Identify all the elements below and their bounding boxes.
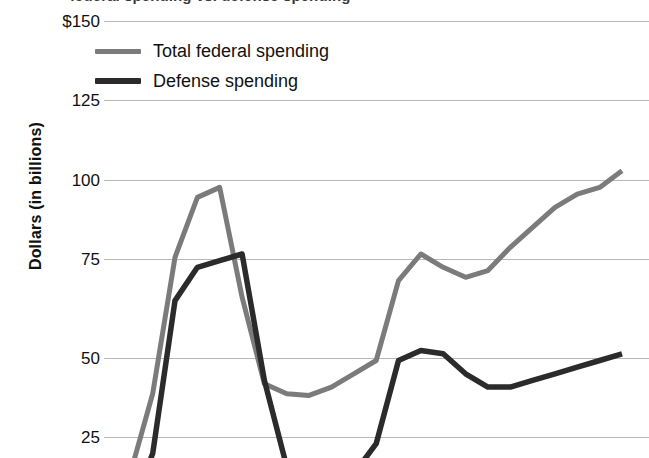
legend-label-defense: Defense spending xyxy=(153,72,298,90)
legend-label-total: Total federal spending xyxy=(153,42,329,60)
y-tick-125: 125 xyxy=(14,92,100,109)
legend-item-defense-spending: Defense spending xyxy=(95,66,415,96)
legend-swatch-defense-icon xyxy=(95,78,141,84)
y-tick-100: 100 xyxy=(14,172,100,189)
y-tick-75: 75 xyxy=(14,251,100,268)
legend-item-total-federal-spending: Total federal spending xyxy=(95,36,415,66)
chart-legend: Total federal spending Defense spending xyxy=(95,36,415,96)
y-tick-150: $150 xyxy=(14,13,100,30)
chart-container: federal spending vs. defense spending Do… xyxy=(0,0,649,458)
y-tick-25: 25 xyxy=(14,429,100,446)
y-axis-tick-labels: $150 125 100 75 50 25 xyxy=(0,0,100,458)
legend-swatch-total-icon xyxy=(95,49,141,54)
line-total-federal-spending xyxy=(108,171,622,458)
y-tick-50: 50 xyxy=(14,350,100,367)
line-defense-spending xyxy=(108,254,622,458)
